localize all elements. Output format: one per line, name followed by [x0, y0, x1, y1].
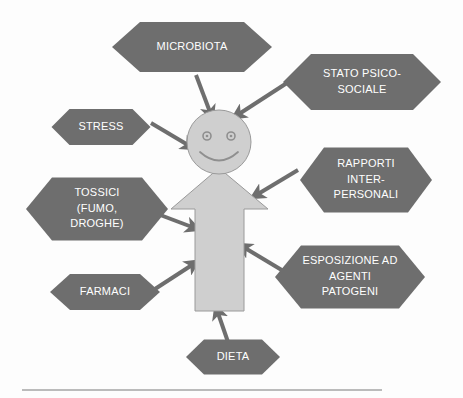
arrow-rapporti-to-body: [258, 170, 298, 194]
arrow-stato-psico-to-head: [239, 81, 290, 114]
node-label-microbiota: MICROBIOTA: [157, 40, 228, 52]
arrow-dieta-to-body: [218, 313, 228, 342]
node-stress[interactable]: STRESS: [52, 109, 151, 145]
figure-head: [187, 110, 251, 174]
node-label-dieta: DIETA: [217, 350, 250, 362]
node-farmaci[interactable]: FARMACI: [50, 274, 160, 310]
node-microbiota[interactable]: MICROBIOTA: [112, 22, 272, 72]
arrow-stress-to-head: [151, 123, 188, 145]
node-label-esposizione-agenti-patogeni: ESPOSIZIONE AD: [302, 254, 397, 266]
node-label-stato-psico-sociale: SOCIALE: [337, 83, 386, 95]
node-label-tossici: TOSSICI: [74, 186, 119, 198]
figure-pupil-left: [206, 135, 209, 138]
figure-body: [171, 168, 268, 311]
node-label-rapporti-interpersonali: PERSONALI: [334, 188, 399, 200]
node-label-stato-psico-sociale: STATO PSICO-: [323, 67, 401, 79]
arrow-microbiota-to-head: [196, 75, 210, 112]
arrow-farmaci-to-body: [155, 265, 192, 289]
arrow-esposizione-to-body: [245, 248, 285, 272]
node-dieta[interactable]: DIETA: [186, 340, 280, 375]
node-label-farmaci: FARMACI: [80, 285, 130, 297]
node-label-tossici: DROGHE): [70, 217, 123, 229]
node-label-rapporti-interpersonali: INTER-: [347, 173, 385, 185]
diagram-canvas: MICROBIOTASTATO PSICO-SOCIALESTRESSRAPPO…: [0, 0, 463, 398]
node-label-esposizione-agenti-patogeni: PATOGENI: [322, 285, 379, 297]
node-label-stress: STRESS: [78, 120, 123, 132]
node-tossici[interactable]: TOSSICI(FUMO,DROGHE): [26, 178, 168, 241]
diagram-svg: MICROBIOTASTATO PSICO-SOCIALESTRESSRAPPO…: [0, 0, 463, 398]
figure-pupil-right: [230, 135, 233, 138]
node-stato-psico-sociale[interactable]: STATO PSICO-SOCIALE: [283, 54, 441, 110]
node-esposizione-agenti-patogeni[interactable]: ESPOSIZIONE ADAGENTIPATOGENI: [275, 246, 425, 309]
node-label-tossici: (FUMO,: [77, 202, 117, 214]
node-rapporti-interpersonali[interactable]: RAPPORTIINTER-PERSONALI: [300, 148, 432, 213]
node-label-esposizione-agenti-patogeni: AGENTI: [329, 270, 371, 282]
central-figure: [171, 110, 268, 311]
node-label-rapporti-interpersonali: RAPPORTI: [337, 157, 395, 169]
